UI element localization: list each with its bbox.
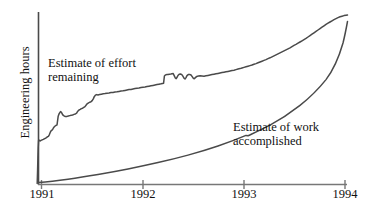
x-axis-label-1993: 1993 bbox=[224, 188, 264, 201]
x-axis-label-1992: 1992 bbox=[123, 188, 163, 201]
annotation-work-accomplished-line1: Estimate of work bbox=[233, 120, 319, 134]
y-axis-title: Engineering hours bbox=[19, 28, 32, 158]
annotation-effort-remaining-line2: remaining bbox=[48, 70, 99, 84]
annotation-effort-remaining-line1: Estimate of effort bbox=[48, 56, 136, 70]
x-axis-label-1994: 1994 bbox=[325, 188, 365, 201]
annotation-work-accomplished-line2: accomplished bbox=[233, 134, 302, 148]
series-line-work-accomplished bbox=[39, 22, 348, 183]
x-axis-label-1991: 1991 bbox=[22, 188, 62, 201]
chart-figure: Engineering hours 1991 1992 1993 1994 Es… bbox=[0, 0, 372, 218]
chart-plot-area bbox=[0, 0, 372, 218]
series-line-effort-remaining bbox=[37, 15, 347, 183]
